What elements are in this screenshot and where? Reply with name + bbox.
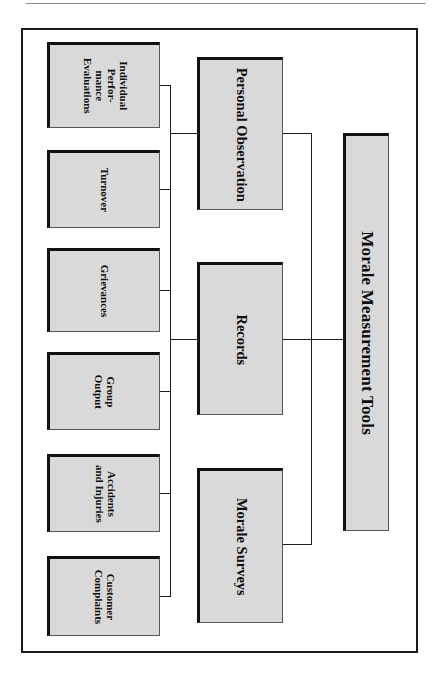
connector-trunk-to-root bbox=[311, 339, 344, 340]
node-label: Morale Measurement Tools bbox=[358, 231, 376, 435]
node-label: Morale Surveys bbox=[233, 498, 249, 596]
node-label: Individual Perfor- mance Evaluations bbox=[81, 58, 129, 114]
node-morale-measurement-tools[interactable]: Morale Measurement Tools bbox=[343, 133, 389, 531]
node-group-output[interactable]: Group Output bbox=[47, 352, 160, 430]
node-label: Turnover bbox=[99, 168, 111, 212]
connector-records-stub bbox=[283, 339, 311, 340]
node-individual-performance-evaluations[interactable]: Individual Perfor- mance Evaluations bbox=[47, 42, 160, 128]
node-accidents-and-injuries[interactable]: Accidents and Injuries bbox=[47, 454, 160, 532]
top-horizontal-rule bbox=[26, 3, 426, 4]
node-grievances[interactable]: Grievances bbox=[47, 248, 160, 332]
node-morale-surveys[interactable]: Morale Surveys bbox=[197, 468, 283, 623]
node-label: Personal Observation bbox=[233, 67, 249, 201]
node-label: Records bbox=[233, 314, 249, 365]
node-label: Grievances bbox=[99, 265, 111, 318]
node-label: Group Output bbox=[93, 375, 117, 409]
node-records[interactable]: Records bbox=[197, 262, 283, 415]
node-customer-complaints[interactable]: Customer Complaints bbox=[47, 556, 160, 636]
connector-leaf-trunk bbox=[170, 85, 171, 597]
figure-page: Individual Perfor- mance Evaluations Tur… bbox=[0, 0, 439, 679]
connector-trunk-to-personal-observation bbox=[170, 133, 198, 134]
node-personal-observation[interactable]: Personal Observation bbox=[197, 57, 283, 210]
node-label: Customer Complaints bbox=[93, 570, 117, 624]
connector-trunk-to-records bbox=[170, 339, 198, 340]
connector-morale-surveys-stub bbox=[283, 544, 311, 545]
connector-personal-observation-stub bbox=[283, 133, 311, 134]
node-label: Accidents and Injuries bbox=[93, 465, 117, 523]
node-turnover[interactable]: Turnover bbox=[47, 150, 160, 228]
